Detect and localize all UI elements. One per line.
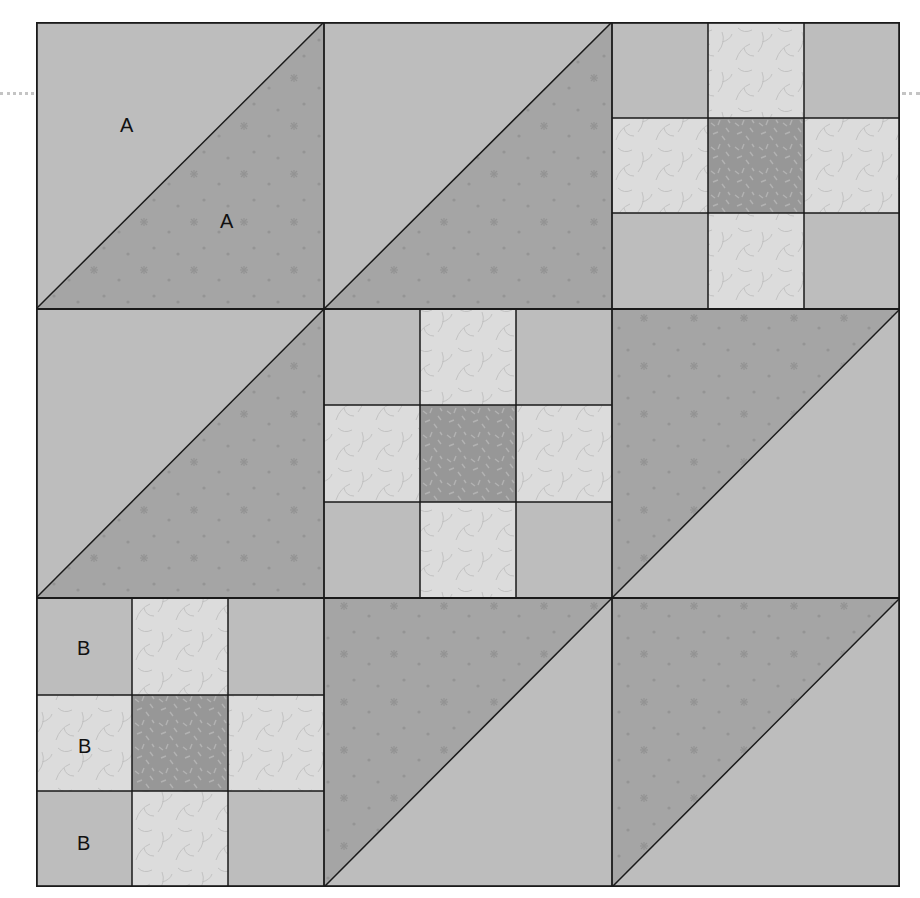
label-b-bottom: B	[77, 832, 90, 854]
block-hst-r0c0: A A	[36, 22, 324, 309]
label-a-light: A	[120, 114, 134, 136]
block-ninepatch-r1c1	[324, 309, 612, 598]
block-hst-r2c1	[324, 598, 612, 887]
block-hst-r0c1	[324, 22, 612, 309]
label-b-middle: B	[78, 735, 91, 757]
block-ninepatch-r2c0: B B B	[36, 598, 324, 887]
guide-dotted-line-right	[902, 92, 920, 95]
block-ninepatch-r0c2	[612, 22, 900, 309]
guide-dotted-line-left	[0, 92, 34, 95]
block-hst-r1c0	[36, 309, 324, 598]
label-a-dark: A	[220, 210, 234, 232]
quilt-diagram: A A	[36, 22, 900, 887]
label-b-top: B	[77, 637, 90, 659]
block-hst-r2c2	[612, 598, 900, 887]
block-hst-r1c2	[612, 309, 900, 598]
